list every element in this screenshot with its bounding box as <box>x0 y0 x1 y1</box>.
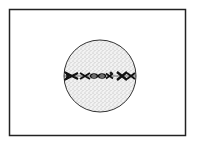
metaphase-cell-diagram <box>0 0 198 143</box>
